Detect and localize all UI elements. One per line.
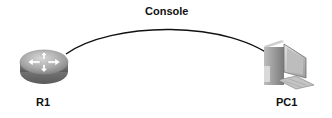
link-label-console: Console [145, 5, 188, 17]
device-label-pc1: PC1 [276, 96, 297, 108]
router-icon[interactable] [20, 50, 68, 84]
device-label-r1: R1 [36, 96, 50, 108]
console-cable[interactable] [66, 29, 279, 62]
pc-icon[interactable] [264, 40, 314, 89]
